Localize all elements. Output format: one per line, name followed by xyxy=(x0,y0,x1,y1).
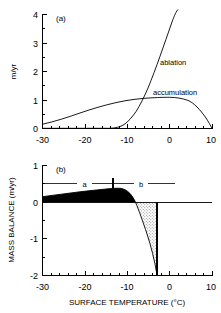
ablation-label: ablation xyxy=(160,58,186,67)
panel-b-y-axis-title: MASS BALANCE (m/yr) xyxy=(7,177,16,263)
panel-a-xtick-0: 0 xyxy=(167,135,172,145)
panel-a-x-ticks xyxy=(43,124,213,129)
panel-b-y-ticks xyxy=(43,166,48,276)
panel-a-xtick--20: -20 xyxy=(78,135,91,145)
panel-b-x-ticks xyxy=(43,271,213,276)
panel-b-ytick-neg2: -2 xyxy=(30,271,38,281)
panel-a-ytick-2: 2 xyxy=(33,67,38,77)
panel-b-ytick-1: 1 xyxy=(33,161,38,171)
panel-a-ytick-4: 4 xyxy=(33,10,38,20)
panel-a-xtick-10: 10 xyxy=(206,135,216,145)
panel-a: 0 1 2 3 4 -30 -20 -10 0 10 m/yr (a) abla… xyxy=(0,0,221,150)
region-a-label: a xyxy=(82,180,87,189)
panel-b-xtick-10: 10 xyxy=(206,282,216,292)
panel-a-y-axis-title: m/yr xyxy=(9,63,18,79)
panel-b-plot: 1 0 -1 -2 -30 -20 -10 0 10 MASS BALANCE … xyxy=(0,150,221,313)
panel-a-ytick-3: 3 xyxy=(33,39,38,49)
panel-a-xtick--30: -30 xyxy=(36,135,49,145)
panel-a-ytick-0: 0 xyxy=(33,124,38,134)
panel-b-ytick-neg1: -1 xyxy=(30,234,38,244)
mass-balance-figure: 0 1 2 3 4 -30 -20 -10 0 10 m/yr (a) abla… xyxy=(0,0,221,313)
accumulation-label: accumulation xyxy=(153,88,197,97)
panel-a-xtick--10: -10 xyxy=(120,135,133,145)
panel-a-plot: 0 1 2 3 4 -30 -20 -10 0 10 m/yr (a) abla… xyxy=(0,0,221,150)
panel-b: 1 0 -1 -2 -30 -20 -10 0 10 MASS BALANCE … xyxy=(0,150,221,313)
panel-a-label: (a) xyxy=(56,14,66,23)
panel-b-ytick-0: 0 xyxy=(33,198,38,208)
ablation-dominant-fill xyxy=(136,202,158,275)
panel-a-ytick-1: 1 xyxy=(33,96,38,106)
panel-b-xtick--10: -10 xyxy=(120,282,133,292)
ablation-curve xyxy=(43,10,179,129)
panel-b-xtick--20: -20 xyxy=(78,282,91,292)
panel-b-xtick--30: -30 xyxy=(36,282,49,292)
region-b-label: b xyxy=(139,180,143,189)
panel-a-y-ticks xyxy=(43,15,48,129)
panel-b-label: (b) xyxy=(56,165,66,174)
panel-b-xtick-0: 0 xyxy=(167,282,172,292)
panel-b-x-axis-title: SURFACE TEMPERATURE (°C) xyxy=(69,298,186,307)
